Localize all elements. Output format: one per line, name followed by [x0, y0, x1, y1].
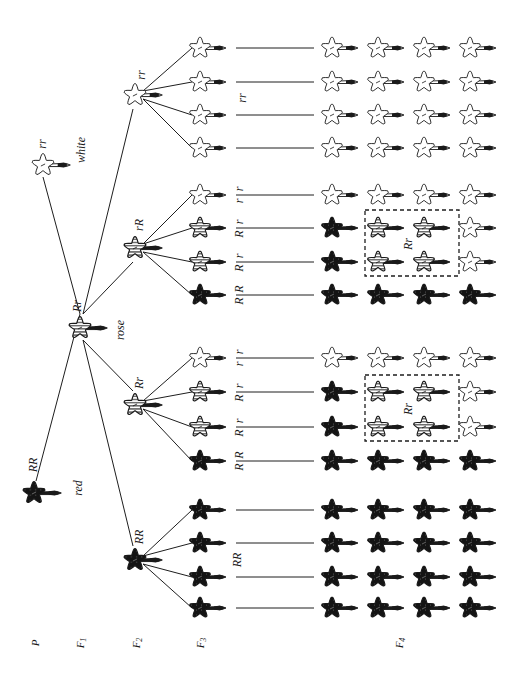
- flower-head-white: [190, 137, 211, 157]
- f3-allele-label: r: [232, 383, 246, 388]
- flower-head-red: [322, 597, 343, 617]
- f4-flower-white: [414, 37, 450, 57]
- f4-flower-white: [460, 184, 496, 204]
- f4-flower-white: [460, 137, 496, 157]
- f3-flower-rose: [190, 217, 226, 237]
- f4-flower-rose: [414, 251, 450, 271]
- flower-head-white: [322, 137, 343, 157]
- f4-flower-rose: [368, 251, 404, 271]
- f3-allele-label: R: [232, 285, 246, 294]
- flower-head-red: [322, 217, 343, 237]
- flower-head-white: [124, 84, 146, 105]
- flower-head-red: [414, 597, 435, 617]
- parent-genotype-label: RR: [26, 457, 40, 473]
- flower-head-white: [190, 104, 211, 124]
- f3-flower-rose: [190, 251, 226, 271]
- f4-flower-white: [368, 137, 404, 157]
- f4-flower-white: [460, 37, 496, 57]
- f2-genotype-label: RR: [132, 529, 146, 545]
- flower-head-rose: [190, 217, 211, 237]
- f4-flower-white: [368, 184, 404, 204]
- f1-to-f2-line: [83, 109, 133, 314]
- flower-head-red: [368, 597, 389, 617]
- f4-flower-white: [414, 184, 450, 204]
- f4-flower-red: [368, 597, 404, 617]
- f4-flower-rose: [368, 381, 404, 401]
- f3-allele-label: R: [232, 297, 246, 306]
- flower-head-red: [460, 597, 481, 617]
- f4-flower-white: [460, 251, 496, 271]
- parent-to-f1-line: [36, 314, 80, 481]
- flower-head-red: [190, 450, 211, 470]
- generation-label-f2: F2: [130, 638, 144, 650]
- flower-head-red: [190, 532, 211, 552]
- flower-head-white: [414, 71, 435, 91]
- f4-flower-white: [368, 37, 404, 57]
- f4-flower-red: [414, 450, 450, 470]
- flower-head-rose: [368, 251, 389, 271]
- f3-flower-white: [190, 184, 226, 204]
- f2-flower-red: [124, 549, 162, 570]
- flower-head-red: [414, 284, 435, 304]
- flower-head-red: [322, 416, 343, 436]
- flower-head-red: [368, 532, 389, 552]
- flower-head-red: [322, 284, 343, 304]
- flower-head-white: [190, 184, 211, 204]
- flower-head-white: [414, 347, 435, 367]
- flower-head-red: [414, 532, 435, 552]
- flower-head-red: [460, 499, 481, 519]
- f4-flower-white: [322, 184, 358, 204]
- f4-flower-red: [414, 597, 450, 617]
- flower-head-white: [322, 184, 343, 204]
- flower-head-red: [460, 284, 481, 304]
- f4-flower-red: [322, 597, 358, 617]
- f3-allele-label: R: [232, 463, 246, 472]
- f2-flower-rose: [124, 394, 162, 415]
- flower-head-red: [368, 284, 389, 304]
- flower-head-red: [190, 499, 211, 519]
- flower-head-red: [190, 597, 211, 617]
- flower-head-white: [460, 37, 481, 57]
- flower-head-red: [322, 566, 343, 586]
- f4-flower-red: [322, 532, 358, 552]
- generation-label-p: P: [29, 639, 41, 647]
- f4-flower-red: [414, 284, 450, 304]
- f1-flower-rose: [69, 317, 107, 338]
- f3-flower-white: [190, 347, 226, 367]
- flower-head-white: [368, 137, 389, 157]
- f2-genotype-label: Rr: [132, 377, 146, 390]
- f3-flower-red: [190, 450, 226, 470]
- flower-head-rose: [414, 416, 435, 436]
- f4-flower-rose: [368, 416, 404, 436]
- f4-flower-white: [414, 347, 450, 367]
- f4-flower-white: [414, 71, 450, 91]
- f3-allele-label: r: [232, 198, 246, 203]
- f2-to-f3-line: [143, 195, 192, 244]
- f3-flower-rose: [190, 416, 226, 436]
- f4-flower-white: [460, 347, 496, 367]
- f3-allele-label: r: [232, 186, 246, 191]
- flower-head-red: [460, 450, 481, 470]
- f3-flower-red: [190, 284, 226, 304]
- f2-flower-white: [124, 84, 162, 105]
- f4-flower-white: [368, 71, 404, 91]
- f4-flower-red: [368, 284, 404, 304]
- f1-phenotype-label: rose: [113, 319, 127, 340]
- flower-head-red: [368, 450, 389, 470]
- flower-head-white: [460, 347, 481, 367]
- f3-allele-label: R: [232, 451, 246, 460]
- heterozygote-box-label: Rr: [401, 238, 415, 251]
- f2-to-f3-line: [143, 392, 192, 401]
- f3-allele-label: r: [232, 219, 246, 224]
- f3-flower-white: [190, 71, 226, 91]
- generation-label-f4: F4: [393, 638, 407, 650]
- f4-flower-white: [322, 347, 358, 367]
- f2-to-f3-line: [143, 409, 192, 461]
- flower-head-rose: [368, 217, 389, 237]
- f4-flower-rose: [368, 217, 404, 237]
- f4-flower-red: [322, 251, 358, 271]
- flower-head-white: [190, 37, 211, 57]
- f3-allele-label: r: [232, 349, 246, 354]
- f4-flower-white: [460, 71, 496, 91]
- flower-head-white: [460, 381, 481, 401]
